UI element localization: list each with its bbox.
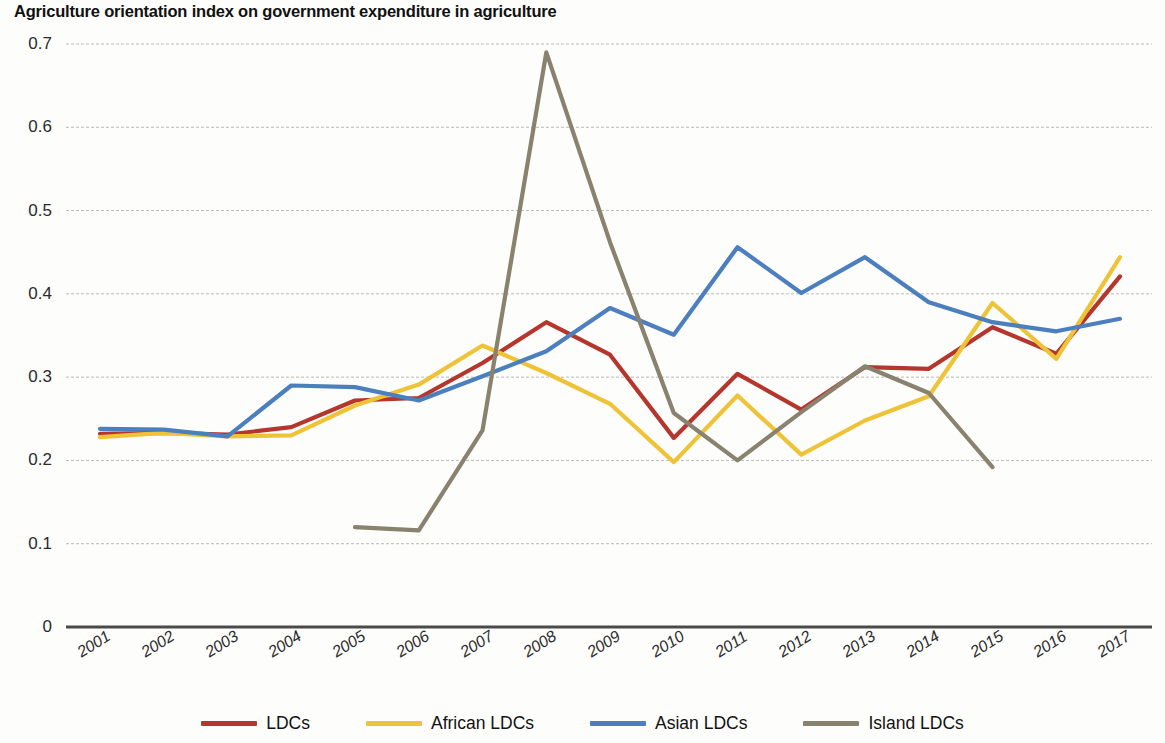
chart-container: Agriculture orientation index on governm… [0,0,1165,743]
y-axis-tick-label: 0.6 [0,117,52,137]
y-axis-tick-label: 0.5 [0,201,52,221]
legend-item[interactable]: LDCs [201,713,310,734]
y-axis-tick-label: 0.4 [0,284,52,304]
legend-swatch-icon [366,721,422,726]
legend-swatch-icon [803,721,859,726]
y-axis-tick-label: 0.1 [0,534,52,554]
gridlines-group [66,44,1152,544]
data-series-group [100,52,1120,530]
legend-label: African LDCs [431,713,534,734]
legend-label: Island LDCs [868,713,963,734]
y-axis-tick-label: 0.2 [0,450,52,470]
legend-swatch-icon [590,721,646,726]
legend-item[interactable]: Island LDCs [803,713,963,734]
legend-item[interactable]: Asian LDCs [590,713,747,734]
legend-swatch-icon [201,721,257,726]
legend-label: LDCs [266,713,310,734]
legend-label: Asian LDCs [655,713,747,734]
chart-legend: LDCsAfrican LDCsAsian LDCsIsland LDCs [0,704,1165,743]
y-axis-tick-label: 0.3 [0,367,52,387]
plot-area: 00.10.20.30.40.50.60.7 20012002200320042… [0,0,1165,743]
legend-item[interactable]: African LDCs [366,713,534,734]
y-axis-tick-label: 0 [0,617,52,637]
series-line [355,52,993,530]
y-axis-tick-label: 0.7 [0,34,52,54]
